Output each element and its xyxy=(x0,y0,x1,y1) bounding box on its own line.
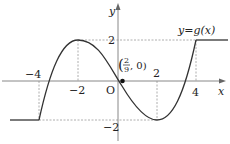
y-axis-arrow-icon xyxy=(116,3,121,10)
x-tick-2: 2 xyxy=(153,67,160,80)
axis-y-label: y xyxy=(108,5,116,18)
function-graph: y x O 2 −2 −4 −2 2 4 y=g(x) ( 2 9 , 0) xyxy=(0,0,230,144)
origin-label: O xyxy=(106,84,115,97)
x-tick-4: 4 xyxy=(192,86,199,99)
axis-x-label: x xyxy=(218,85,225,98)
x-axis-arrow-icon xyxy=(219,79,226,84)
y-tick-2: 2 xyxy=(108,34,115,47)
point-label-rest: , 0) xyxy=(130,60,147,71)
y-tick-neg2: −2 xyxy=(103,121,119,134)
point-label-open: ( xyxy=(118,56,124,74)
x-tick-neg2: −2 xyxy=(69,84,85,97)
function-label: y=g(x) xyxy=(177,24,215,37)
function-curve xyxy=(10,40,228,120)
point-label-denominator: 9 xyxy=(124,65,129,74)
intercept-point xyxy=(120,79,125,84)
point-label: ( 2 9 , 0) xyxy=(118,56,147,74)
x-tick-neg4: −4 xyxy=(25,68,41,81)
point-label-numerator: 2 xyxy=(124,56,129,65)
